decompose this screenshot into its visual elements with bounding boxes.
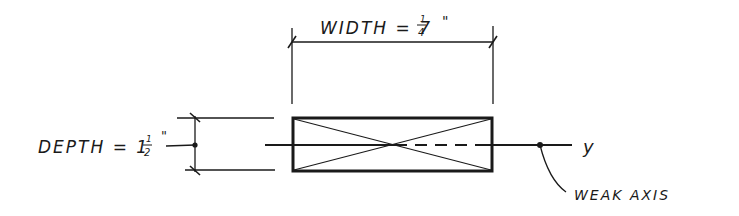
depth-label: DEPTH = 1 — [38, 137, 149, 157]
axis-label-y: y — [582, 136, 596, 157]
callout-label: WEAK AXIS — [574, 187, 670, 203]
depth-dimension: DEPTH = 1 1 2 " — [38, 113, 275, 175]
depth-leader-line — [166, 145, 195, 146]
depth-frac-den: 2 — [144, 147, 152, 158]
width-unit: " — [442, 13, 450, 29]
width-frac-den: 4 — [418, 27, 426, 38]
depth-unit: " — [161, 128, 169, 143]
width-label: WIDTH = 7 — [320, 18, 432, 38]
weak-axis-diagram: WIDTH = 7 1 4 " y WEAK AXIS DEPTH = 1 1 … — [0, 0, 739, 216]
width-frac-num: 1 — [420, 14, 428, 24]
callout-leader-line — [540, 145, 566, 192]
width-dimension: WIDTH = 7 1 4 " — [288, 13, 497, 104]
weak-axis-callout: WEAK AXIS — [540, 145, 670, 203]
depth-frac-num: 1 — [146, 134, 154, 144]
